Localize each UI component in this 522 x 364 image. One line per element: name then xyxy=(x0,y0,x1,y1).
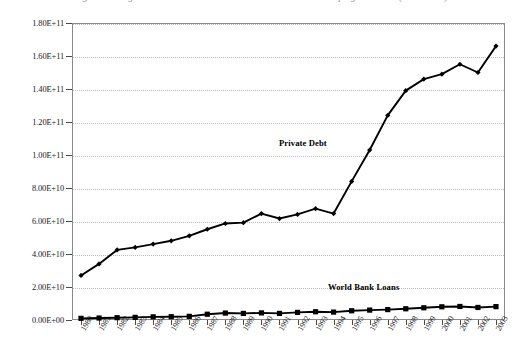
y-axis-tick xyxy=(66,320,72,321)
y-axis-tick xyxy=(66,89,72,90)
gridline xyxy=(73,255,504,256)
y-axis-tick xyxy=(66,254,72,255)
y-axis-tick-label: 0.00E+00 xyxy=(2,316,64,325)
y-axis-tick-label: 8.00E+10 xyxy=(2,184,64,193)
gridline xyxy=(73,90,504,91)
y-axis-tick-label: 1.20E+11 xyxy=(2,118,64,127)
plot-area xyxy=(72,23,505,320)
series-label-world-bank-loans: World Bank Loans xyxy=(328,282,399,292)
y-axis-tick xyxy=(66,122,72,123)
gridline xyxy=(73,222,504,223)
y-axis-tick-label: 4.00E+10 xyxy=(2,250,64,259)
chart-container: 0.00E+002.00E+104.00E+106.00E+108.00E+10… xyxy=(0,0,522,364)
y-axis-tick-label: 1.40E+11 xyxy=(2,85,64,94)
gridline xyxy=(73,189,504,190)
y-axis-tick xyxy=(66,287,72,288)
y-axis-tick-label: 2.00E+10 xyxy=(2,283,64,292)
gridline xyxy=(73,123,504,124)
y-axis-tick-label: 6.00E+10 xyxy=(2,217,64,226)
y-axis-tick xyxy=(66,155,72,156)
gridline xyxy=(73,24,504,25)
gridline xyxy=(73,57,504,58)
y-axis-tick xyxy=(66,221,72,222)
gridline xyxy=(73,156,504,157)
y-axis-tick xyxy=(66,23,72,24)
y-axis-tick-label: 1.60E+11 xyxy=(2,52,64,61)
y-axis-tick xyxy=(66,188,72,189)
gridline xyxy=(73,288,504,289)
y-axis-tick xyxy=(66,56,72,57)
series-label-private-debt: Private Debt xyxy=(279,138,327,148)
y-axis-tick-label: 1.00E+11 xyxy=(2,151,64,160)
y-axis-tick-label: 1.80E+11 xyxy=(2,19,64,28)
